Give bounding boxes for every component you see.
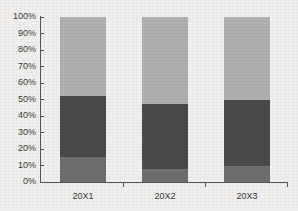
- x-label-20X3: 20X3: [212, 191, 282, 201]
- bar-segment-20X3-middle[interactable]: [224, 100, 270, 166]
- percent-axis-labels: 100% 90% 80% 70% 60% 50% 40% 30% 20% 10%…: [0, 0, 36, 211]
- y-tick-label-100: 100%: [0, 12, 36, 21]
- x-label-20X1: 20X1: [48, 191, 118, 201]
- y-tick-label-60: 60%: [0, 78, 36, 87]
- x-label-20X2: 20X2: [130, 191, 200, 201]
- y-tick-label-10: 10%: [0, 161, 36, 170]
- y-tick-label-50: 50%: [0, 95, 36, 104]
- bar-segment-20X2-top[interactable]: [142, 17, 188, 104]
- y-tick-label-0: 0%: [0, 177, 36, 186]
- period-axis-line: [40, 182, 288, 183]
- y-tick-label-30: 30%: [0, 128, 36, 137]
- x-tick-mark-1: [123, 183, 124, 187]
- bar-segment-20X2-bottom[interactable]: [142, 169, 188, 182]
- bar-segment-20X1-bottom[interactable]: [60, 157, 106, 182]
- bar-segment-20X1-middle[interactable]: [60, 96, 106, 157]
- x-tick-mark-3: [287, 183, 288, 187]
- bar-segment-20X1-top[interactable]: [60, 17, 106, 96]
- bar-segment-20X3-bottom[interactable]: [224, 166, 270, 183]
- bar-segment-20X2-middle[interactable]: [142, 104, 188, 168]
- y-tick-label-90: 90%: [0, 29, 36, 38]
- y-tick-label-20: 20%: [0, 144, 36, 153]
- bar-group-20X2[interactable]: [142, 17, 188, 182]
- y-tick-label-80: 80%: [0, 45, 36, 54]
- x-tick-mark-2: [205, 183, 206, 187]
- stacked-bar-chart: 100% 90% 80% 70% 60% 50% 40% 30% 20% 10%…: [0, 0, 298, 211]
- y-tick-label-70: 70%: [0, 62, 36, 71]
- y-tick-label-40: 40%: [0, 111, 36, 120]
- plot-area: [40, 17, 288, 182]
- bar-group-20X3[interactable]: [224, 17, 270, 182]
- bar-group-20X1[interactable]: [60, 17, 106, 182]
- bar-segment-20X3-top[interactable]: [224, 17, 270, 100]
